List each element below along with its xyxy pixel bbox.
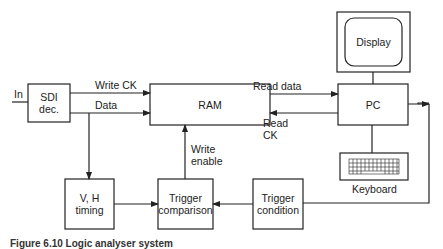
pc-label: PC	[338, 84, 408, 125]
keyboard-label: Keyboard	[352, 183, 397, 195]
vh-line1: V, H	[80, 192, 99, 204]
vh-timing-label: V, H timing	[65, 179, 114, 229]
read-ck-line1: Read	[263, 117, 288, 129]
sdi-line2: dec.	[39, 103, 59, 115]
read-ck-line2: CK	[263, 129, 288, 141]
vh-line2: timing	[75, 204, 103, 216]
write-enable-label: Write enable	[191, 143, 223, 167]
sdi-decoder-label: SDI dec.	[28, 84, 70, 122]
figure-caption: Figure 6.10 Logic analyser system	[10, 238, 173, 249]
tcond-line1: Trigger	[262, 192, 295, 204]
ram-label: RAM	[150, 84, 270, 125]
read-ck-label: Read CK	[263, 117, 288, 141]
tcomp-line2: comparison	[158, 204, 212, 216]
tcond-line2: condition	[257, 204, 299, 216]
read-data-label: Read data	[253, 80, 301, 92]
write-ck-label: Write CK	[95, 79, 137, 91]
input-label: In	[14, 88, 23, 100]
keyboard-box	[340, 153, 408, 180]
sdi-line1: SDI	[40, 91, 58, 103]
write-enable-line1: Write	[191, 143, 223, 155]
data-label: Data	[95, 99, 117, 111]
display-label: Display	[345, 18, 402, 66]
trigger-comparison-label: Trigger comparison	[158, 179, 213, 229]
keyboard-keys-icon	[349, 159, 399, 174]
tcomp-line1: Trigger	[169, 192, 202, 204]
trigger-condition-label: Trigger condition	[253, 179, 303, 229]
write-enable-line2: enable	[191, 155, 223, 167]
